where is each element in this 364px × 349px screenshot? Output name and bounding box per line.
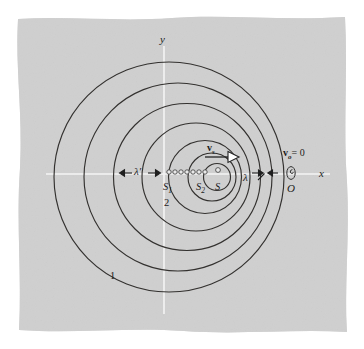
source-marker	[197, 170, 201, 174]
observer-velocity-value: = 0	[292, 147, 305, 158]
source-velocity-subscript: s	[212, 148, 215, 156]
wavefront-1-label: 1	[110, 271, 115, 282]
source-velocity-label: vs	[207, 143, 215, 156]
source-marker	[179, 170, 183, 174]
wavelength-ahead-label: λ	[243, 172, 248, 183]
lambda-right-arrowhead	[268, 170, 273, 176]
source-marker	[203, 170, 207, 174]
source-1-label: S1	[163, 182, 172, 195]
wavefront-circle-4	[142, 123, 250, 231]
source-marker	[185, 170, 189, 174]
source-2-subscript: 2	[201, 186, 205, 195]
observer-inner-curl	[290, 170, 293, 174]
wavelength-ahead-measure	[252, 170, 278, 180]
source-now-label: S	[215, 182, 220, 193]
wavefront-circles	[54, 62, 284, 292]
wavelength-behind-label: λ′	[134, 166, 141, 177]
diagram-vector-layer	[0, 0, 364, 349]
wavefront-circle-3	[114, 104, 261, 251]
x-axis-label: x	[319, 168, 324, 179]
current-source-marker	[216, 168, 221, 173]
source-marker	[191, 170, 195, 174]
lambda-prime-left-arrowhead	[120, 170, 125, 177]
observer-velocity-label: vo= 0	[283, 148, 305, 161]
doppler-wavefront-figure: y x O λ′ λ 1 2 S1 S2 S vs vo= 0	[0, 0, 364, 349]
origin-label: O	[287, 183, 295, 194]
source-marker	[167, 170, 171, 174]
source-marker	[173, 170, 177, 174]
wavefront-2-label: 2	[164, 198, 169, 209]
source-2-label: S2	[196, 182, 205, 195]
source-1-subscript: 1	[168, 186, 172, 195]
lambda-prime-right-arrowhead	[156, 170, 161, 177]
observer-glyph	[287, 167, 295, 180]
y-axis-label: y	[160, 34, 165, 45]
